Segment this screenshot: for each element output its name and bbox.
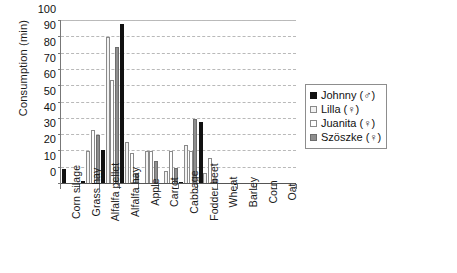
legend-item[interactable]: Johnny (♂) (310, 88, 381, 102)
bar-chart: Consumption (min) 0102030405060708090100… (0, 0, 457, 273)
bar (62, 169, 66, 184)
x-label-cell: Cabbage (178, 190, 198, 270)
x-label-cell: Corn (257, 190, 277, 270)
x-label-cell: Barley (237, 190, 257, 270)
legend-item[interactable]: Juanita (♀) (310, 116, 381, 130)
legend-label: Juanita (♀) (321, 117, 375, 129)
chart-legend: Johnny (♂)Lilla (♀)Juanita (♀)Szöszke (♀… (305, 84, 387, 149)
x-axis-labels: Corn silageGrass hayAlfalfa pelletAlfalf… (60, 190, 296, 270)
x-tick-label: Oat (286, 183, 298, 200)
x-label-cell: Corn silage (60, 190, 80, 270)
bar-group (159, 21, 179, 184)
bar-groups (61, 21, 296, 184)
y-tick-label: 100 (38, 3, 61, 15)
legend-label: Lilla (♀) (321, 103, 359, 115)
x-label-cell: Alfalfa hay (119, 190, 139, 270)
bar-group (178, 21, 198, 184)
y-tick-label: 90 (44, 19, 61, 31)
legend-item[interactable]: Lilla (♀) (310, 102, 381, 116)
y-tick-label: 30 (44, 117, 61, 129)
legend-swatch (310, 120, 317, 127)
y-tick-label: 50 (44, 85, 61, 97)
bar-group (81, 21, 101, 184)
y-tick-label: 10 (44, 150, 61, 162)
y-axis-title: Consumption (min) (17, 0, 29, 153)
bar-group (120, 21, 140, 184)
x-label-cell: Fodder beet (198, 190, 218, 270)
bar-group (237, 21, 257, 184)
bar-group (198, 21, 218, 184)
y-tick-label: 80 (44, 36, 61, 48)
bar-group (276, 21, 296, 184)
bar (120, 24, 124, 184)
legend-swatch (310, 134, 317, 141)
x-label-cell: Carrot (158, 190, 178, 270)
y-tick-label: 20 (44, 133, 61, 145)
bar-group (139, 21, 159, 184)
x-label-cell: Oat (276, 190, 296, 270)
legend-label: Szöszke (♀) (321, 131, 381, 143)
y-tick-label: 0 (50, 166, 61, 178)
bar-group (100, 21, 120, 184)
bar-group (257, 21, 277, 184)
legend-swatch (310, 92, 317, 99)
x-label-cell: Wheat (217, 190, 237, 270)
plot-area: 0102030405060708090100 (60, 20, 296, 184)
legend-label: Johnny (♂) (321, 89, 375, 101)
y-tick-label: 60 (44, 68, 61, 80)
bar-group (218, 21, 238, 184)
x-label-cell: Apple (139, 190, 159, 270)
legend-swatch (310, 106, 317, 113)
legend-item[interactable]: Szöszke (♀) (310, 130, 381, 144)
y-tick-label: 70 (44, 52, 61, 64)
x-label-cell: Grass hay (80, 190, 100, 270)
y-tick-label: 40 (44, 101, 61, 113)
x-label-cell: Alfalfa pellet (99, 190, 119, 270)
bar-group (61, 21, 81, 184)
